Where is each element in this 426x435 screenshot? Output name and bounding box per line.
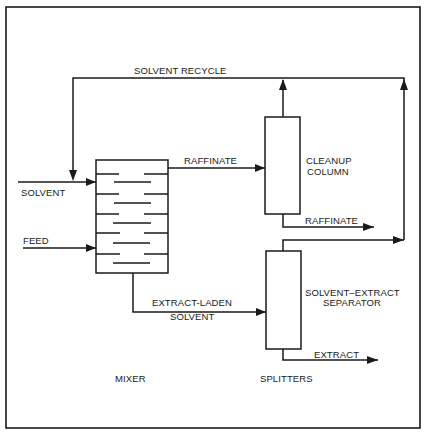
feed-inlet-label: FEED: [23, 235, 49, 246]
cleanup-column: [265, 117, 300, 214]
separator-label-line2: SEPARATOR: [323, 297, 381, 308]
raffinate-out-label: RAFFINATE: [305, 215, 358, 226]
extract-out-label: EXTRACT: [314, 349, 359, 360]
raffinate-to-column-label: RAFFINATE: [184, 155, 237, 166]
cleanup-column-label-line2: COLUMN: [307, 166, 349, 177]
mixer-vessel: [96, 160, 168, 273]
extract-laden-label-line2: SOLVENT: [170, 311, 214, 322]
extract-laden-label-line1: EXTRACT-LADEN: [152, 297, 232, 308]
solvent-inlet-label: SOLVENT: [21, 187, 65, 198]
mixer-label: MIXER: [115, 373, 146, 384]
solvent-recycle-label: SOLVENT RECYCLE: [134, 65, 226, 76]
cleanup-column-label-line1: CLEANUP: [306, 155, 352, 166]
splitters-label: SPLITTERS: [260, 373, 313, 384]
process-flow-diagram: SOLVENT RECYCLE SOLVENT FEED: [0, 0, 426, 435]
separator-column: [266, 251, 301, 349]
